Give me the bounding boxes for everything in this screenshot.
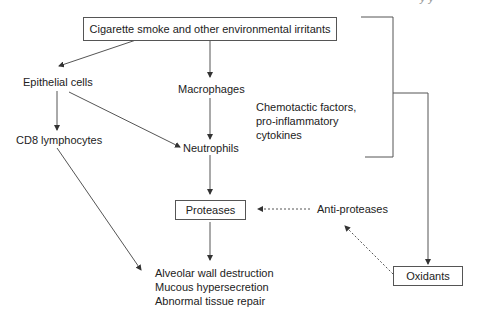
node-macrophages: Macrophages xyxy=(178,82,245,96)
edge-oxidants-antiproteases xyxy=(345,226,393,274)
node-epithelial: Epithelial cells xyxy=(23,75,93,89)
node-cd8: CD8 lymphocytes xyxy=(16,133,102,147)
node-outcomes: Alveolar wall destruction Mucous hyperse… xyxy=(155,266,274,308)
node-mediators: Chemotactic factors, pro-inflammatory cy… xyxy=(256,100,356,142)
edge-cd8-outcomes xyxy=(57,148,141,270)
node-irritants: Cigarette smoke and other environmental … xyxy=(83,17,337,41)
header-fragment: y y xyxy=(420,0,434,5)
edge-bracket-oxidants xyxy=(393,93,428,264)
node-anti-proteases: Anti-proteases xyxy=(317,202,388,216)
bracket xyxy=(361,17,393,157)
node-proteases: Proteases xyxy=(175,200,246,220)
node-neutrophils: Neutrophils xyxy=(183,141,239,155)
node-oxidants: Oxidants xyxy=(393,266,463,286)
edge-irritants-epithelial xyxy=(59,40,136,66)
